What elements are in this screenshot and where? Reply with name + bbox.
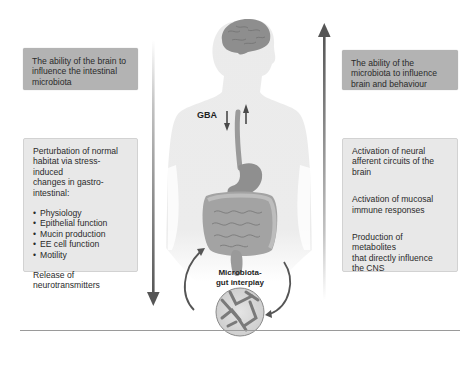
detail-line: Release of [33,270,128,280]
detail-line: afferent circuits of the [352,156,448,166]
bullet-physiology: Physiology [33,208,128,218]
spacer [352,177,448,194]
header-line: microbiota to influence [351,68,449,78]
detail-line: intestinal: [33,188,128,198]
detail-line: Activation of mucosal [352,194,448,204]
microbiota-influence-header-box: The ability of the microbiota to influen… [342,50,458,90]
interplay-label-line: gut interplay [208,278,272,288]
bullet-epithelial-function: Epithelial function [33,218,128,228]
gut-to-brain-arrow-icon [318,23,331,300]
brain-to-gut-arrow-icon [147,40,160,306]
header-line: brain and behaviour [351,79,449,89]
brain-influence-header-box: The ability of the brain to influence th… [23,48,138,90]
brain-influence-detail-box: Perturbation of normal habitat via stres… [23,138,138,272]
header-line: The ability of the brain to [32,56,129,66]
bullet-mucin-production: Mucin production [33,229,128,239]
microbiota-gut-interplay-label: Microbiota- gut interplay [208,268,272,287]
gi-effects-list: Physiology Epithelial function Mucin pro… [33,208,128,260]
detail-line: habitat via stress-induced [33,156,128,177]
detail-line: that directly influence [352,253,448,263]
microbiota-influence-detail-box: Activation of neural afferent circuits o… [342,138,458,272]
header-line: The ability of the [351,58,449,68]
spacer [33,198,128,208]
gba-label: GBA [197,110,217,120]
bottom-divider [20,330,460,331]
bullet-ee-cell-function: EE cell function [33,239,128,249]
microbiota-icon [216,288,264,336]
detail-line: neurotransmitters [33,280,128,290]
detail-line: brain [352,167,448,177]
spacer [352,215,448,232]
detail-line: Perturbation of normal [33,146,128,156]
detail-line: changes in gastro- [33,177,128,187]
detail-line: Activation of neural [352,146,448,156]
detail-line: Production of metabolites [352,232,448,253]
esophagus-icon [237,112,240,168]
detail-line: the CNS [352,263,448,273]
spacer [33,260,128,270]
bullet-motility: Motility [33,250,128,260]
header-line: influence the intestinal [32,66,129,76]
header-line: microbiota [32,77,129,87]
interplay-label-line: Microbiota- [208,268,272,278]
detail-line: immune responses [352,205,448,215]
